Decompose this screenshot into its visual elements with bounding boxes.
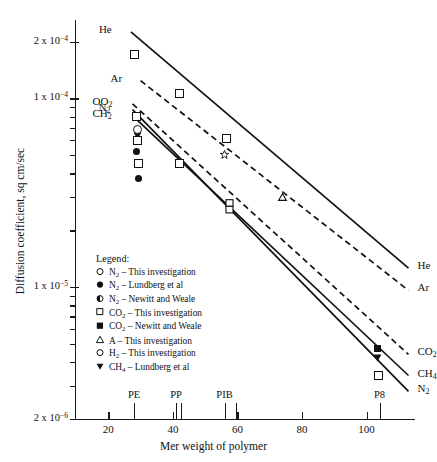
- legend-entry: CH4 – Lundberg et al: [96, 362, 202, 376]
- data-point-co2-open-square: [175, 159, 184, 168]
- data-point-co2-filled-square: [374, 345, 381, 352]
- curve-label-right-ch4: CH4: [418, 367, 437, 381]
- legend-marker-filled-triangle-down: [96, 362, 109, 376]
- curve-label-left-ar: Ar: [111, 72, 123, 84]
- data-point-he-open-square: [175, 89, 184, 98]
- legend-entry: A – This investigation: [96, 335, 202, 349]
- data-point-n2-open-square: [134, 159, 143, 168]
- data-point-n2-filled-circle: [135, 175, 142, 182]
- legend-entry: N2 – This investigation: [96, 267, 202, 281]
- legend-marker-open-square: [96, 307, 109, 321]
- data-point-co2-open-square: [132, 112, 141, 121]
- legend-entry: H2 – This investigation: [96, 348, 202, 362]
- legend-marker-open-triangle: [96, 335, 109, 349]
- legend-entry-label: CO2 – Newitt and Weale: [109, 320, 202, 335]
- data-point-n2-open-circle: [133, 125, 142, 134]
- legend-entry: CO2 – Newitt and Weale: [96, 321, 202, 335]
- legend-marker-filled-square: [96, 321, 109, 335]
- y-axis-title: Diffusion coefficient, sq cm/sec: [14, 141, 26, 301]
- legend-entries: N2 – This investigationN2 – Lundberg et …: [96, 267, 202, 376]
- x-axis-title: Mer weight of polymer: [0, 440, 427, 452]
- data-point-n2-open-square: [374, 371, 383, 380]
- data-point-n2-filled-circle: [133, 148, 140, 155]
- data-point-n2-open-square: [133, 136, 142, 145]
- legend-marker-open-circle: [96, 267, 109, 281]
- curve-label-left-n2: N2: [99, 101, 111, 115]
- curve-label-right-n2: N2: [418, 382, 430, 396]
- curve-label-right-co2: CO2: [418, 345, 437, 359]
- curve-label-right-ar: Ar: [418, 281, 430, 293]
- data-point-he-open-square: [222, 134, 231, 143]
- curve-label-left-he: He: [99, 23, 112, 35]
- legend-title: Legend:: [96, 252, 202, 266]
- legend-marker-filled-circle: [96, 280, 109, 294]
- legend-entry-label: CH4 – Lundberg et al: [109, 361, 189, 376]
- legend-marker-half-filled-circle: [96, 294, 109, 308]
- legend: Legend: N2 – This investigationN2 – Lund…: [96, 252, 202, 375]
- legend-entry: CO2 – This investigation: [96, 307, 202, 321]
- legend-entry: N2 – Lundberg et al: [96, 280, 202, 294]
- curve-label-right-he: He: [418, 259, 431, 271]
- data-point-he-open-square: [130, 50, 139, 59]
- legend-entry-label: A – This investigation: [109, 335, 192, 349]
- legend-marker-open-circle: [96, 348, 109, 362]
- legend-entry: N2 – Newitt and Weale: [96, 294, 202, 308]
